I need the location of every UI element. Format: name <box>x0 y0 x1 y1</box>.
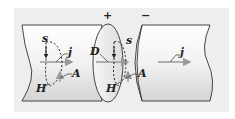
left-s-label: s <box>42 32 48 45</box>
left-H-label: H <box>35 82 47 95</box>
mid-D-label: D <box>89 45 100 58</box>
right-conductor <box>135 25 213 101</box>
plus-sign-label: + <box>103 9 112 22</box>
diagram-frame: + − s j A H D s A H j <box>0 0 235 119</box>
capacitor-diagram: + − s j A H D s A H j <box>0 0 235 119</box>
mid-s-label: s <box>126 34 132 47</box>
minus-sign-label: − <box>141 9 150 22</box>
left-conductor <box>22 25 102 101</box>
left-A-label: A <box>71 67 81 80</box>
mid-A-label: A <box>137 67 147 80</box>
mid-H-label: H <box>105 82 117 95</box>
